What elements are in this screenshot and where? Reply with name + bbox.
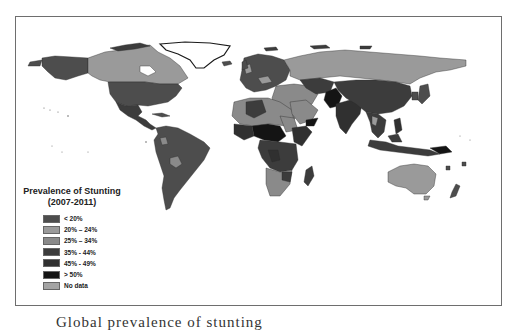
legend-items: < 20% 20% – 24% 25% – 34% 35% - 44% 45% … xyxy=(22,213,132,291)
legend-item: > 50% xyxy=(43,269,132,280)
legend-swatch xyxy=(43,259,60,267)
legend-item: No data xyxy=(43,280,132,291)
region-australia xyxy=(388,164,436,194)
legend-title: Prevalence of Stunting (2007-2011) xyxy=(22,186,122,208)
legend-swatch xyxy=(43,226,60,234)
region-sahel xyxy=(252,124,286,142)
region-usa xyxy=(108,82,182,106)
legend-label: 35% - 44% xyxy=(64,249,96,256)
legend: Prevalence of Stunting (2007-2011) < 20%… xyxy=(22,186,132,291)
legend-swatch xyxy=(43,237,60,245)
legend-swatch xyxy=(43,248,60,256)
region-indonesia xyxy=(368,140,440,156)
legend-item: < 20% xyxy=(43,213,132,224)
legend-label: 45% - 49% xyxy=(64,260,96,267)
legend-swatch xyxy=(43,271,60,279)
legend-title-line2: (2007-2011) xyxy=(22,197,122,208)
legend-item: 45% - 49% xyxy=(43,258,132,269)
legend-label: 20% – 24% xyxy=(64,226,97,233)
region-alaska xyxy=(42,56,88,80)
figure-caption: Global prevalence of stunting xyxy=(56,314,263,331)
region-new-zealand xyxy=(450,184,460,198)
legend-label: > 50% xyxy=(64,271,83,278)
region-mexico xyxy=(116,102,156,130)
legend-swatch xyxy=(43,282,60,290)
legend-item: 25% – 34% xyxy=(43,235,132,246)
legend-item: 20% – 24% xyxy=(43,224,132,235)
legend-swatch xyxy=(43,215,60,223)
region-madagascar xyxy=(304,166,314,186)
legend-label: No data xyxy=(64,282,88,289)
legend-label: < 20% xyxy=(64,215,83,222)
legend-label: 25% – 34% xyxy=(64,237,97,244)
legend-item: 35% - 44% xyxy=(43,247,132,258)
legend-title-line1: Prevalence of Stunting xyxy=(22,186,122,197)
